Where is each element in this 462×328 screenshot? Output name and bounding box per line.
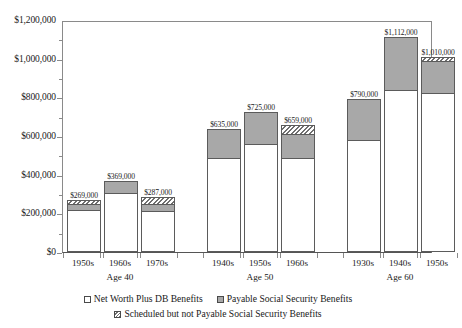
segment-net-worth-plus-db bbox=[207, 158, 241, 252]
segment-scheduled-not-payable bbox=[281, 125, 315, 134]
x-axis-group-label: Age 40 bbox=[85, 272, 155, 283]
legend-row-2: Scheduled but not Payable Social Securit… bbox=[0, 305, 436, 320]
legend-label-net-worth: Net Worth Plus DB Benefits bbox=[94, 293, 203, 304]
x-axis-tick-mark bbox=[240, 253, 241, 258]
x-axis-tick-mark bbox=[277, 253, 278, 258]
segment-payable-social-security bbox=[281, 134, 315, 159]
segment-payable-social-security bbox=[421, 61, 455, 94]
bar-value-label: $1,010,000 bbox=[421, 49, 454, 57]
bar-age-60-1940s[interactable] bbox=[384, 37, 418, 252]
bar-value-label: $790,000 bbox=[350, 91, 378, 99]
legend-label-scheduled: Scheduled but not Payable Social Securit… bbox=[124, 308, 321, 319]
x-axis-tick-mark bbox=[100, 253, 101, 258]
x-axis-category-label: 1950s bbox=[412, 258, 462, 269]
bar-value-label: $269,000 bbox=[70, 192, 98, 200]
bar-age-40-1970s[interactable] bbox=[141, 197, 175, 252]
x-axis-tick-mark bbox=[177, 253, 178, 258]
segment-scheduled-not-payable bbox=[141, 197, 175, 205]
x-axis-tick-mark bbox=[63, 253, 64, 258]
x-axis-tick-mark bbox=[380, 253, 381, 258]
y-axis-tick-label: $1,000,000 bbox=[0, 55, 56, 65]
gray-square-icon bbox=[217, 296, 224, 303]
x-axis-tick-mark bbox=[417, 253, 418, 258]
y-axis-tick-label: $800,000 bbox=[0, 93, 56, 103]
x-axis-tick-mark bbox=[203, 253, 204, 258]
x-axis-tick-mark bbox=[457, 253, 458, 258]
segment-payable-social-security bbox=[104, 181, 138, 193]
x-axis-category-label: 1960s bbox=[272, 258, 322, 269]
y-axis-tick-mark bbox=[57, 253, 62, 254]
x-axis-group-label: Age 50 bbox=[225, 272, 295, 283]
legend-row-1: Net Worth Plus DB Benefits Payable Socia… bbox=[0, 290, 436, 305]
x-axis-tick-mark bbox=[343, 253, 344, 258]
y-axis-tick-label: $0 bbox=[0, 248, 56, 258]
legend-item-scheduled-not-payable-social-security-benefits[interactable]: Scheduled but not Payable Social Securit… bbox=[114, 307, 321, 320]
chart-legend: Net Worth Plus DB Benefits Payable Socia… bbox=[0, 290, 436, 320]
x-axis-tick-mark bbox=[137, 253, 138, 258]
segment-net-worth-plus-db bbox=[421, 93, 455, 252]
segment-net-worth-plus-db bbox=[384, 90, 418, 252]
segment-net-worth-plus-db bbox=[104, 193, 138, 252]
segment-payable-social-security bbox=[67, 204, 101, 211]
segment-net-worth-plus-db bbox=[67, 210, 101, 252]
x-axis-group-label: Age 60 bbox=[365, 272, 435, 283]
legend-item-payable-social-security-benefits[interactable]: Payable Social Security Benefits bbox=[217, 292, 353, 305]
bar-value-label: $635,000 bbox=[210, 121, 238, 129]
segment-net-worth-plus-db bbox=[244, 144, 278, 252]
bar-age-50-1950s[interactable] bbox=[244, 112, 278, 252]
segment-payable-social-security bbox=[384, 37, 418, 90]
y-axis-tick-label: $600,000 bbox=[0, 132, 56, 142]
x-axis-tick-mark bbox=[317, 253, 318, 258]
bar-age-50-1960s[interactable] bbox=[281, 125, 315, 252]
segment-payable-social-security bbox=[207, 129, 241, 158]
bar-value-label: $287,000 bbox=[144, 189, 172, 197]
hatched-square-icon bbox=[114, 311, 121, 318]
segment-net-worth-plus-db bbox=[281, 158, 315, 252]
bar-value-label: $725,000 bbox=[247, 104, 275, 112]
bar-age-40-1960s[interactable] bbox=[104, 181, 138, 252]
legend-label-payable: Payable Social Security Benefits bbox=[227, 293, 353, 304]
segment-payable-social-security bbox=[141, 204, 175, 211]
bar-value-label: $369,000 bbox=[107, 173, 135, 181]
bar-age-60-1950s[interactable] bbox=[421, 57, 455, 252]
bar-age-60-1930s[interactable] bbox=[347, 99, 381, 252]
segment-payable-social-security bbox=[347, 99, 381, 140]
plot-area: $269,000$369,000$287,000$635,000$725,000… bbox=[62, 21, 432, 253]
bar-age-40-1950s[interactable] bbox=[67, 200, 101, 252]
x-axis-category-label: 1970s bbox=[132, 258, 182, 269]
bar-age-50-1940s[interactable] bbox=[207, 129, 241, 252]
y-axis-tick-label: $200,000 bbox=[0, 209, 56, 219]
segment-net-worth-plus-db bbox=[347, 140, 381, 252]
bar-value-label: $659,000 bbox=[284, 117, 312, 125]
segment-payable-social-security bbox=[244, 112, 278, 144]
y-axis-tick-label: $400,000 bbox=[0, 171, 56, 181]
segment-net-worth-plus-db bbox=[141, 211, 175, 252]
white-square-icon bbox=[84, 296, 91, 303]
legend-item-net-worth-plus-db-benefits[interactable]: Net Worth Plus DB Benefits bbox=[84, 292, 203, 305]
y-axis-tick-label: $1,200,000 bbox=[0, 16, 56, 26]
bar-value-label: $1,112,000 bbox=[385, 29, 418, 37]
